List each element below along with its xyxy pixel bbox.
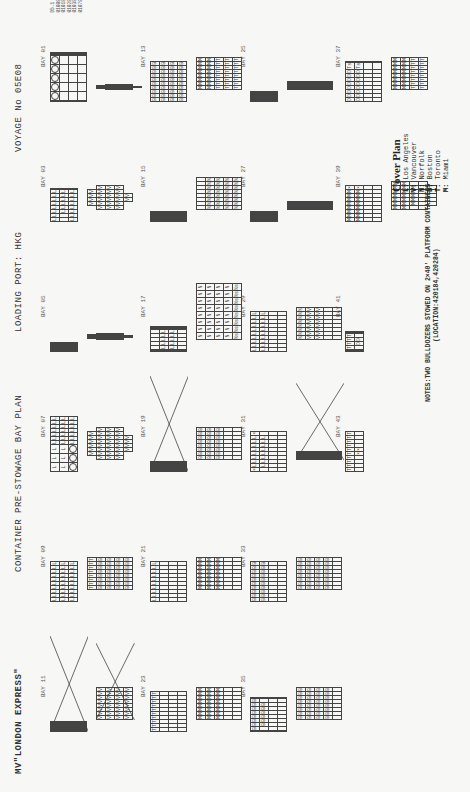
container-slot <box>169 707 178 711</box>
container-slot <box>60 344 69 345</box>
container-slot: V <box>114 201 123 205</box>
container-slot <box>178 565 187 569</box>
container-slot: V <box>124 695 133 699</box>
container-slot: B <box>324 695 333 699</box>
container-slot: T <box>151 691 160 695</box>
container-slot: L <box>51 424 60 428</box>
container-slot: L <box>69 593 78 597</box>
container-slot <box>296 208 305 209</box>
container-slot: N <box>215 325 224 332</box>
container-slot: M <box>206 569 215 573</box>
container-slot <box>251 216 260 217</box>
container-slot <box>269 561 278 565</box>
container-slot: T <box>346 451 355 455</box>
container-slot <box>269 722 278 726</box>
container-slot <box>269 455 278 459</box>
container-slot <box>114 339 123 340</box>
container-slot: B <box>169 97 178 101</box>
container-slot <box>160 699 169 703</box>
container-slot <box>51 343 60 344</box>
container-slot <box>124 87 133 88</box>
container-slot: V <box>105 431 114 435</box>
container-slot: V <box>96 427 105 431</box>
container-slot <box>224 703 233 707</box>
container-slot <box>323 86 332 87</box>
container-slot: M <box>197 57 206 61</box>
bay-label: BAY 41 <box>335 295 342 317</box>
container-slot <box>69 345 78 346</box>
container-slot <box>314 89 323 90</box>
container-slot <box>178 462 187 463</box>
container-slot: V <box>87 443 96 447</box>
container-slot: M <box>355 209 364 213</box>
container-slot <box>105 335 114 336</box>
container-slot <box>60 350 69 351</box>
container-slot <box>160 350 169 351</box>
bay-cell-grid: VVVVVVVVVVVVVVVVVVVVVVVV <box>87 185 133 210</box>
bay-cell-grid: VVVVVVVVVVVVVVVVVVVVVVVVVVVVVVVV <box>96 687 133 720</box>
container-slot <box>324 454 333 455</box>
container-slot: T <box>346 435 355 439</box>
container-slot: T <box>87 561 96 565</box>
container-slot: M <box>197 85 206 89</box>
container-slot: L <box>69 428 78 432</box>
container-slot: V <box>315 335 324 339</box>
container-slot: L <box>69 213 78 217</box>
container-slot <box>51 722 60 723</box>
container-slot: L <box>51 585 60 589</box>
container-slot: L <box>69 577 78 581</box>
container-slot <box>296 209 305 210</box>
container-slot: V <box>105 455 114 459</box>
container-slot: V <box>114 439 123 443</box>
container-slot: V <box>106 703 115 707</box>
container-slot <box>333 565 342 569</box>
container-slot <box>87 338 96 339</box>
container-slot: M <box>206 585 215 589</box>
container-slot: B <box>206 427 215 431</box>
container-slot: N <box>215 332 224 339</box>
container-slot <box>160 715 169 719</box>
container-slot: B <box>324 557 333 561</box>
container-slot: × <box>251 431 260 435</box>
container-slot <box>160 326 169 327</box>
container-slot: V <box>106 691 115 695</box>
container-slot <box>178 327 187 328</box>
container-slot <box>278 323 287 327</box>
bay-label: BAY 07 <box>40 415 47 437</box>
container-slot: L <box>251 455 260 459</box>
container-slot: L <box>260 451 269 455</box>
container-slot: M <box>392 65 401 69</box>
container-slot <box>315 458 324 459</box>
container-slot <box>296 203 305 204</box>
container-slot <box>169 711 178 715</box>
container-slot <box>178 569 187 573</box>
container-slot: V <box>123 439 132 443</box>
container-slot <box>160 467 169 468</box>
container-slot <box>69 722 78 723</box>
container-slot: V <box>114 185 123 189</box>
container-slot: L <box>251 335 260 339</box>
container-slot <box>364 189 373 193</box>
container-slot: B <box>251 589 260 593</box>
container-slot: L <box>260 311 269 315</box>
container-slot: B <box>297 557 306 561</box>
container-slot <box>346 350 355 351</box>
container-slot <box>115 88 124 89</box>
container-slot: T <box>410 61 419 65</box>
container-slot: T <box>346 447 355 451</box>
container-slot: B <box>151 85 160 89</box>
reefer-marker-icon <box>51 56 59 64</box>
container-slot <box>160 217 169 218</box>
container-slot <box>69 343 78 344</box>
container-slot <box>151 471 160 472</box>
container-slot <box>97 88 106 89</box>
container-slot <box>269 343 278 347</box>
container-slot <box>364 93 373 97</box>
container-slot <box>251 214 260 215</box>
container-slot: M <box>346 209 355 213</box>
container-slot <box>297 455 306 456</box>
container-slot <box>69 65 78 74</box>
container-slot <box>315 456 324 457</box>
container-slot <box>224 707 233 711</box>
container-slot <box>96 335 105 336</box>
